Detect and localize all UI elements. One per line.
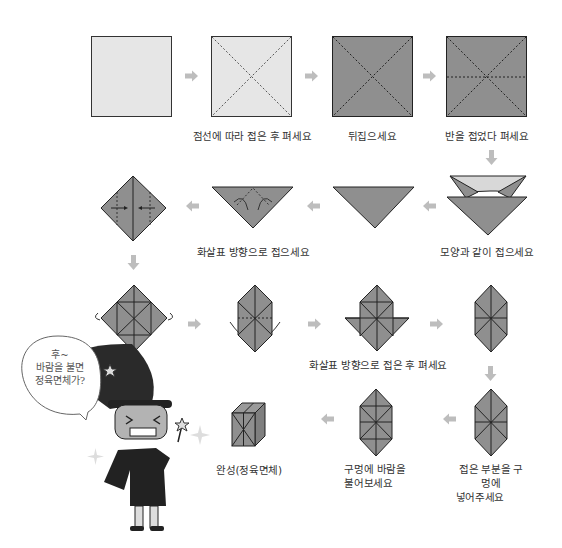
step-3-label: 뒤집으세요 [348,128,397,143]
arrow-right-icon [185,71,198,82]
step-5-waterbomb-base-shape [447,176,527,235]
step-9-diamond-grid [95,285,172,352]
step-11-boat-shape [345,285,409,351]
arrow-left-icon [307,201,320,212]
step-1-square-light [92,37,172,117]
step-10-hexagon-fold [230,285,280,352]
step-11-label: 화살표 방향으로 접은 후 펴세요 [309,357,447,372]
arrow-left-icon [321,414,334,425]
arrow-down-icon [485,366,497,381]
step-14-hexagon-inflate [360,389,392,456]
arrow-left-icon [443,414,456,425]
step-12-hexagon [475,285,507,352]
step-6-triangle [333,187,414,228]
step-5-label: 모양과 같이 접으세요 [440,244,533,259]
arrow-right-icon [430,319,443,330]
step-14-label-line1: 구멍에 바람을 [344,462,405,476]
speech-bubble-text: 후~ 바람을 불면 정육면체가? [22,348,98,387]
step-14-label-line2: 불어보세요 [344,476,405,490]
step-4-square-halffold [447,37,527,117]
bubble-line-1: 후~ [22,348,98,361]
step-14-label: 구멍에 바람을 불어보세요 [344,462,405,490]
arrow-right-icon [188,319,201,330]
step-3-square-flipped [333,37,413,117]
step-15-label: 완성(정육면체) [216,462,282,477]
arrow-left-icon [186,201,199,212]
step-13-label-line1: 접은 부분을 구멍에 [456,462,527,490]
step-13-hexagon-tucked [475,389,507,456]
step-8-diamond [101,176,166,241]
arrow-right-icon [308,319,321,330]
step-7-triangle-fold-arrows [212,187,293,228]
step-13-label-line2: 넣어주세요 [456,490,527,504]
arrow-right-icon [305,71,318,82]
bubble-line-3: 정육면체가? [22,374,98,387]
step-2-label: 점선에 따라 접은 후 펴세요 [193,128,312,143]
arrow-left-icon [423,201,436,212]
bubble-line-2: 바람을 불면 [22,361,98,374]
arrow-down-icon [128,255,140,270]
step-13-label: 접은 부분을 구멍에 넣어주세요 [456,462,527,504]
step-7-label: 화살표 방향으로 접으세요 [197,244,310,259]
arrow-down-icon [486,150,498,165]
step-15-cube-finished [232,403,265,446]
step-4-label: 반을 접었다 펴세요 [445,128,529,143]
arrow-right-icon [423,71,436,82]
step-2-square-diagonals [212,37,292,117]
